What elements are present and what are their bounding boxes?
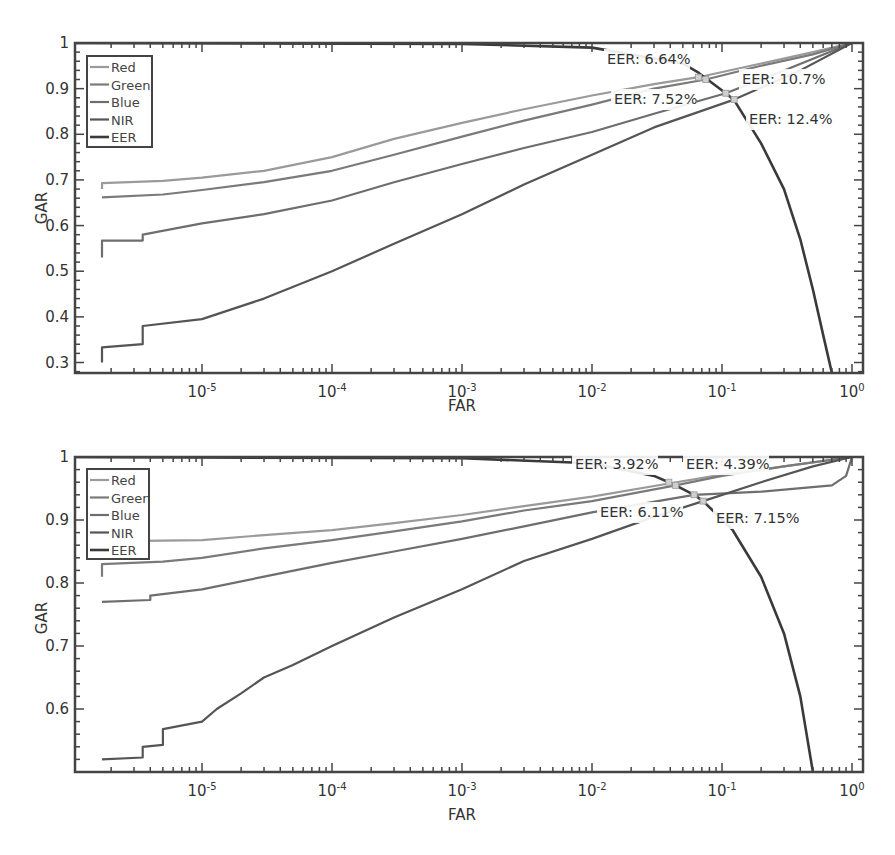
x-tick-label: 10-4 <box>317 781 346 800</box>
series-group <box>72 43 852 373</box>
eer-marker <box>666 479 672 485</box>
series-line-nir <box>102 457 852 759</box>
y-tick-label: 1 <box>59 448 69 466</box>
legend-item-eer: EER <box>111 543 136 558</box>
eer-marker <box>691 492 697 498</box>
y-tick-label: 0.7 <box>45 637 69 655</box>
eer-annotation: EER: 10.7% <box>742 71 826 87</box>
plot-frame <box>75 43 863 373</box>
eer-annotation: EER: 7.52% <box>614 91 698 107</box>
y-axis-label: GAR <box>33 192 51 224</box>
x-tick-label: 100 <box>839 781 864 800</box>
x-tick-label: 10-1 <box>707 781 736 800</box>
plot-frame <box>75 457 863 772</box>
eer-annotation: EER: 4.39% <box>686 456 770 472</box>
y-tick-label: 0.8 <box>45 125 69 143</box>
series-group <box>72 457 852 772</box>
x-tick-label: 10-4 <box>317 382 346 401</box>
x-tick-label: 10-5 <box>187 781 216 800</box>
series-line-blue <box>102 457 852 602</box>
series-line-nir <box>102 43 852 363</box>
eer-annotation: EER: 7.15% <box>716 510 800 526</box>
eer-marker <box>731 97 737 103</box>
series-line-eer <box>72 43 832 373</box>
x-tick-label: 10-5 <box>187 382 216 401</box>
bottom-chart: 0.60.70.80.9110-510-410-310-210-1100FARG… <box>33 448 865 824</box>
legend-item-blue: Blue <box>111 95 140 110</box>
x-tick-label: 100 <box>839 382 864 401</box>
y-tick-label: 0.7 <box>45 171 69 189</box>
y-tick-label: 1 <box>59 34 69 52</box>
legend-item-nir: NIR <box>111 526 134 541</box>
legend: RedGreenBlueNIREER <box>87 56 152 147</box>
eer-annotation: EER: 6.64% <box>607 51 691 67</box>
y-ticks <box>75 43 863 372</box>
top-chart: 0.30.40.50.60.70.80.9110-510-410-310-210… <box>33 34 865 415</box>
eer-annotation: EER: 6.11% <box>600 504 684 520</box>
y-tick-label: 0.6 <box>45 700 69 718</box>
x-tick-label: 10-2 <box>577 781 606 800</box>
legend-item-blue: Blue <box>111 508 140 523</box>
y-axis-label: GAR <box>33 602 51 634</box>
y-tick-label: 0.4 <box>45 308 69 326</box>
y-tick-label: 0.8 <box>45 574 69 592</box>
legend-item-green: Green <box>111 491 150 506</box>
eer-marker <box>700 498 706 504</box>
y-tick-label: 0.5 <box>45 262 69 280</box>
x-axis-label: FAR <box>448 397 476 415</box>
x-tick-label: 10-1 <box>707 382 736 401</box>
eer-marker <box>703 77 709 83</box>
y-ticks <box>75 457 863 772</box>
legend-item-red: Red <box>111 60 136 75</box>
legend-item-red: Red <box>111 473 136 488</box>
eer-annotation: EER: 3.92% <box>575 456 659 472</box>
x-axis-label: FAR <box>448 806 476 824</box>
y-tick-label: 0.3 <box>45 354 69 372</box>
y-tick-label: 0.9 <box>45 511 69 529</box>
eer-marker <box>723 90 729 96</box>
eer-marker <box>673 482 679 488</box>
legend: RedGreenBlueNIREER <box>87 469 150 559</box>
legend-item-nir: NIR <box>111 113 134 128</box>
eer-annotation: EER: 12.4% <box>749 111 833 127</box>
series-line-red <box>102 43 852 189</box>
eer-marker <box>696 74 702 80</box>
x-tick-label: 10-2 <box>577 382 606 401</box>
legend-item-green: Green <box>111 78 150 93</box>
legend-item-eer: EER <box>111 130 136 145</box>
figure: 0.30.40.50.60.70.80.9110-510-410-310-210… <box>0 0 895 855</box>
x-ticks <box>111 43 852 373</box>
x-ticks <box>111 457 852 772</box>
x-tick-label: 10-3 <box>447 781 476 800</box>
y-tick-label: 0.9 <box>45 80 69 98</box>
